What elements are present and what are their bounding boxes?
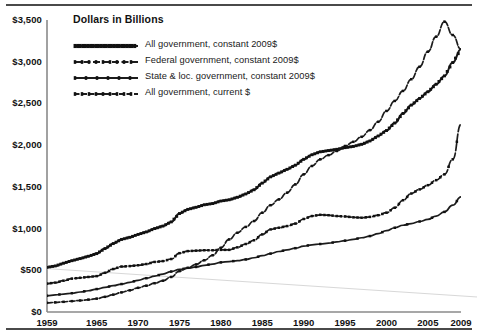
- legend-label: All government, current $: [145, 87, 250, 97]
- legend-item: Federal government, constant 2009$: [73, 52, 315, 68]
- legend-label: State & loc. government, constant 2009$: [145, 71, 315, 81]
- legend-item: All government, current $: [73, 84, 315, 100]
- y-tick-label: $3,500: [0, 14, 42, 25]
- legend-label: All government, constant 2009$: [145, 39, 277, 49]
- legend-label: Federal government, constant 2009$: [145, 55, 299, 65]
- x-tick-label: 1970: [116, 317, 160, 328]
- legend-swatch-icon: [73, 86, 139, 98]
- y-tick-label: $2,000: [0, 139, 42, 150]
- y-tick-label: $1,500: [0, 181, 42, 192]
- x-tick-label: 1990: [282, 317, 326, 328]
- y-tick-label: $2,500: [0, 97, 42, 108]
- legend-swatch-icon: [73, 54, 139, 66]
- scan-artifact-line: [47, 269, 477, 297]
- legend-item: State & loc. government, constant 2009$: [73, 68, 315, 84]
- legend-swatch-icon: [73, 70, 139, 82]
- x-tick-label: 2000: [364, 317, 408, 328]
- y-tick-label: $0: [0, 306, 42, 317]
- legend-item: All government, constant 2009$: [73, 36, 315, 52]
- x-tick-label: 1965: [75, 317, 119, 328]
- legend-swatch-icon: [73, 38, 139, 50]
- y-tick-label: $500: [0, 264, 42, 275]
- x-tick-label: 2009: [439, 317, 479, 328]
- chart-legend: All government, constant 2009$Federal go…: [73, 36, 315, 100]
- x-tick-label: 1980: [199, 317, 243, 328]
- y-tick-label: $3,000: [0, 56, 42, 67]
- x-tick-label: 1985: [240, 317, 284, 328]
- y-tick-label: $1,000: [0, 223, 42, 234]
- series-line: [46, 124, 461, 285]
- x-tick-label: 1995: [323, 317, 367, 328]
- x-tick-label: 1975: [157, 317, 201, 328]
- chart-figure: Dollars in Billions $0$500$1,000$1,500$2…: [0, 0, 479, 335]
- x-tick-label: 1959: [25, 317, 69, 328]
